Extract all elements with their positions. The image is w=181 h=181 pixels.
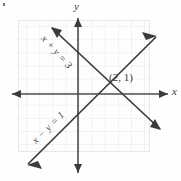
intersection-point-label: (2, 1) [109, 72, 133, 83]
axis-label-x: x [172, 86, 177, 97]
graph-figure: x y (2, 1) x + y = 3 x − y = 1 [0, 0, 181, 181]
scan-artifact-speck [3, 3, 5, 6]
axis-label-y: y [74, 1, 79, 12]
coordinate-plane-svg [0, 0, 181, 181]
